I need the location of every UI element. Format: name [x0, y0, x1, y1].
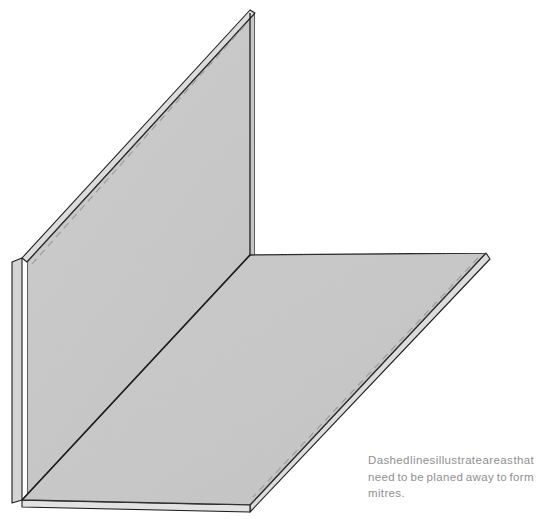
caption-word: form	[510, 469, 534, 486]
caption-word: illustrate	[436, 452, 482, 469]
caption-word: need	[368, 469, 395, 486]
caption-word: lines	[410, 452, 435, 469]
caption: Dashed lines illustrate areas that need …	[368, 452, 534, 502]
caption-word: to	[398, 469, 408, 486]
caption-word: areas	[483, 452, 514, 469]
vertical-board-left-edge-face	[12, 258, 22, 503]
illustration-figure: Dashed lines illustrate areas that need …	[0, 0, 548, 519]
caption-word: Dashed	[368, 452, 410, 469]
caption-word: planed	[427, 469, 464, 486]
caption-line-1: Dashed lines illustrate areas that	[368, 452, 534, 469]
caption-word: be	[410, 469, 424, 486]
caption-word: that	[513, 452, 534, 469]
mitre-boards-drawing	[0, 0, 548, 519]
caption-line-2: need to be planed away to form	[368, 469, 534, 486]
caption-line-3: mitres.	[368, 485, 534, 502]
caption-word: to	[497, 469, 507, 486]
caption-word: away	[466, 469, 494, 486]
